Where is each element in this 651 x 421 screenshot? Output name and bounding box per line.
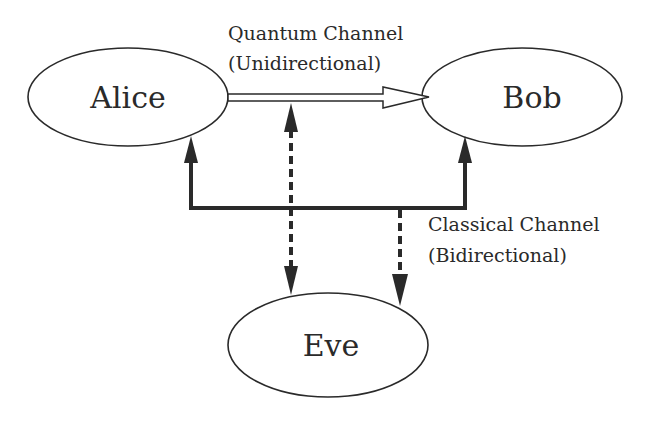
- classical-channel-title: Classical Channel: [428, 213, 600, 235]
- node-eve: Eve: [228, 293, 428, 397]
- node-bob: Bob: [422, 48, 622, 146]
- qkd-diagram: Alice Bob Eve Quantum Channel (Unidirect…: [0, 0, 651, 421]
- classical-channel-label: Classical Channel (Bidirectional): [428, 213, 600, 266]
- hollow-arrow-icon: [228, 87, 429, 108]
- classical-channel-line: [191, 160, 465, 208]
- arrowhead-up-icon: [184, 136, 198, 163]
- eve-label: Eve: [303, 328, 360, 363]
- node-alice: Alice: [28, 48, 228, 146]
- classical-channel-arrow: [184, 136, 472, 208]
- classical-channel-subtitle: (Bidirectional): [428, 244, 567, 266]
- quantum-channel-arrow: [228, 87, 429, 108]
- arrowhead-up-icon: [458, 136, 472, 163]
- quantum-channel-label: Quantum Channel (Unidirectional): [228, 22, 403, 74]
- arrowhead-up-icon: [284, 103, 298, 132]
- eavesdrop-link-quantum: [284, 103, 298, 295]
- arrowhead-down-icon: [392, 274, 408, 306]
- bob-label: Bob: [502, 80, 561, 115]
- eavesdrop-link-classical: [392, 210, 408, 306]
- arrowhead-down-icon: [284, 266, 298, 295]
- quantum-channel-subtitle: (Unidirectional): [228, 52, 381, 74]
- alice-label: Alice: [89, 80, 165, 115]
- quantum-channel-title: Quantum Channel: [228, 22, 403, 44]
